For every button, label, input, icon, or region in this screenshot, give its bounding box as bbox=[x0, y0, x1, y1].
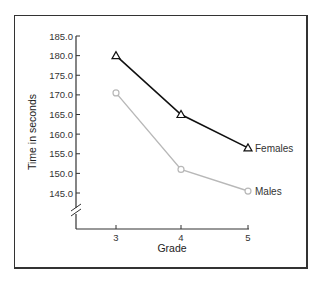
x-axis: 345 bbox=[76, 225, 251, 243]
x-axis-title: Grade bbox=[157, 242, 186, 254]
y-axis: 185.0180.0175.0170.0165.0160.0155.0150.0… bbox=[49, 31, 81, 230]
series-females: Females bbox=[112, 52, 293, 154]
triangle-marker-icon bbox=[112, 52, 120, 59]
series-label-females: Females bbox=[255, 143, 293, 154]
line-chart: 185.0180.0175.0170.0165.0160.0155.0150.0… bbox=[0, 0, 320, 282]
y-tick-label: 185.0 bbox=[49, 31, 73, 42]
x-tick-label: 3 bbox=[113, 232, 118, 243]
x-tick-label: 5 bbox=[245, 232, 250, 243]
circle-marker-icon bbox=[245, 188, 251, 194]
y-tick-label: 170.0 bbox=[49, 89, 73, 100]
series-group: FemalesMales bbox=[112, 52, 293, 197]
y-tick-label: 165.0 bbox=[49, 109, 73, 120]
y-tick-label: 180.0 bbox=[49, 50, 73, 61]
circle-marker-icon bbox=[113, 90, 119, 96]
triangle-marker-icon bbox=[244, 144, 252, 151]
y-tick-label: 160.0 bbox=[49, 129, 73, 140]
y-tick-label: 155.0 bbox=[49, 148, 73, 159]
y-axis-title: Time in seconds bbox=[26, 94, 38, 170]
y-tick-label: 145.0 bbox=[49, 188, 73, 199]
y-tick-label: 175.0 bbox=[49, 70, 73, 81]
series-label-males: Males bbox=[255, 186, 282, 197]
circle-marker-icon bbox=[178, 166, 184, 172]
y-tick-label: 150.0 bbox=[49, 168, 73, 179]
